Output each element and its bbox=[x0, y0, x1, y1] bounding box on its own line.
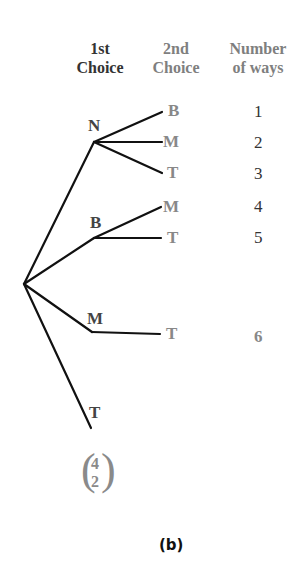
node-first-N: N bbox=[88, 117, 100, 135]
binomial-coefficient: ( 4 2 ) bbox=[81, 452, 115, 500]
node-first-T: T bbox=[89, 404, 100, 422]
ways-6: 6 bbox=[254, 328, 263, 346]
node-second-N-B: B bbox=[168, 102, 179, 120]
tree-diagram-lines bbox=[0, 0, 299, 571]
ways-2: 2 bbox=[254, 134, 263, 152]
edge-N-B bbox=[94, 112, 162, 142]
edge-N-T bbox=[94, 142, 162, 173]
ways-4: 4 bbox=[254, 198, 263, 216]
edge-B-M bbox=[94, 207, 161, 238]
ways-3: 3 bbox=[254, 165, 263, 183]
binomial-bottom: 2 bbox=[91, 474, 99, 490]
binomial-top: 4 bbox=[91, 456, 99, 472]
node-first-B: B bbox=[90, 214, 101, 232]
node-first-M: M bbox=[87, 310, 103, 328]
ways-5: 5 bbox=[254, 229, 263, 247]
node-second-N-T: T bbox=[167, 164, 178, 182]
node-second-N-M: M bbox=[163, 133, 179, 151]
edge-root-N bbox=[24, 142, 94, 284]
figure-caption: (b) bbox=[159, 536, 183, 554]
edge-root-T bbox=[24, 284, 91, 428]
edge-M-T bbox=[92, 332, 160, 334]
ways-1: 1 bbox=[254, 103, 263, 121]
right-paren: ) bbox=[101, 448, 116, 492]
node-second-M-T: T bbox=[166, 325, 177, 343]
node-second-B-M: M bbox=[163, 198, 179, 216]
node-second-B-T: T bbox=[167, 229, 178, 247]
